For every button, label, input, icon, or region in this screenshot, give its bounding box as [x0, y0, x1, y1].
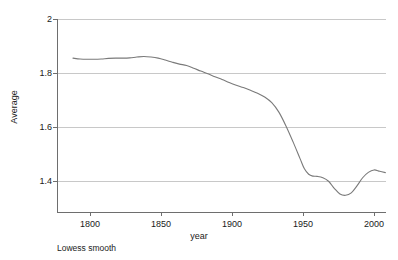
gridlines	[57, 19, 386, 181]
y-tick-label: 1.6	[14, 122, 52, 132]
x-axis-title: year	[0, 231, 398, 241]
x-tick-label: 2000	[349, 219, 398, 229]
x-tick-label: 1800	[65, 219, 115, 229]
x-tick-label: 1850	[136, 219, 186, 229]
y-axis-title: Average	[9, 77, 19, 137]
y-tick-label: 2	[14, 14, 52, 24]
chart-container: 1.41.61.82 18001850190019502000 Average …	[0, 0, 398, 260]
chart-plot-area	[0, 0, 398, 260]
x-tick-label: 1950	[278, 219, 328, 229]
chart-footnote: Lowess smooth	[57, 243, 116, 253]
axis-ticks	[53, 19, 374, 216]
y-tick-label: 1.4	[14, 176, 52, 186]
y-tick-label: 1.8	[14, 68, 52, 78]
axis-lines	[57, 19, 386, 212]
data-series	[73, 57, 385, 196]
x-tick-label: 1900	[207, 219, 257, 229]
series-line	[73, 57, 385, 196]
